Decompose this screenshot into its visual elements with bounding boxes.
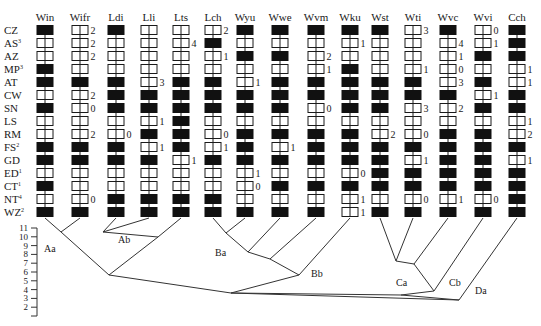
state-filled xyxy=(173,77,190,87)
state-filled xyxy=(440,25,457,35)
state-value: 1 xyxy=(494,90,499,101)
state-filled xyxy=(237,207,254,217)
state-value: 0 xyxy=(127,129,132,140)
state-filled xyxy=(272,90,289,100)
state-value: 1 xyxy=(160,142,165,153)
column-header: Wwe xyxy=(268,11,291,23)
state-value: 1 xyxy=(528,64,533,75)
state-filled xyxy=(108,90,125,100)
column-lts: Lts41 xyxy=(173,11,197,217)
tree-branch xyxy=(270,218,316,259)
state-filled xyxy=(272,155,289,165)
tree-branch xyxy=(158,218,181,237)
state-filled xyxy=(475,168,492,178)
state-value: 1 xyxy=(327,64,332,75)
state-value: 1 xyxy=(528,155,533,166)
state-filled xyxy=(342,77,359,87)
state-value: 2 xyxy=(91,25,96,36)
state-filled xyxy=(509,181,526,191)
state-filled xyxy=(509,207,526,217)
clade-label-bb: Bb xyxy=(311,268,323,279)
state-value: 1 xyxy=(224,142,229,153)
tree-branch xyxy=(213,218,226,233)
state-filled xyxy=(272,181,289,191)
state-filled xyxy=(205,90,222,100)
row-label-rm: RM xyxy=(4,128,21,140)
state-filled xyxy=(173,207,190,217)
state-filled xyxy=(272,103,289,113)
state-value: 1 xyxy=(256,77,261,88)
row-label-ls: LS xyxy=(4,115,17,127)
state-value: 0 xyxy=(424,129,429,140)
state-value: 0 xyxy=(91,103,96,114)
column-lch: Lch2101 xyxy=(204,11,228,217)
state-filled xyxy=(440,207,457,217)
state-value: 2 xyxy=(91,38,96,49)
row-label-nt: NT4 xyxy=(4,193,22,205)
state-filled xyxy=(440,142,457,152)
state-filled xyxy=(475,207,492,217)
column-header: Win xyxy=(36,11,55,23)
state-value: 2 xyxy=(528,129,533,140)
tree-branch xyxy=(459,218,517,300)
column-wyu: Wyu110 xyxy=(235,11,261,217)
tree-branch xyxy=(231,275,299,293)
state-filled xyxy=(37,25,54,35)
state-filled xyxy=(272,25,289,35)
state-filled xyxy=(237,90,254,100)
row-label-fs: FS2 xyxy=(4,141,19,153)
column-header: Wvm xyxy=(304,11,329,23)
column-header: Wifr xyxy=(70,11,91,23)
tree-branch xyxy=(103,232,158,237)
tree-branch xyxy=(396,261,414,264)
state-filled xyxy=(173,194,190,204)
state-value: 1 xyxy=(494,38,499,49)
y-axis-scale: 111098765432 xyxy=(19,223,37,316)
state-filled xyxy=(475,142,492,152)
state-filled xyxy=(475,181,492,191)
state-filled xyxy=(205,194,222,204)
state-filled xyxy=(37,207,54,217)
row-label-sn: SN xyxy=(4,102,18,114)
column-header: Lli xyxy=(143,11,156,23)
state-filled xyxy=(405,90,422,100)
tree-branch xyxy=(109,275,231,293)
state-filled xyxy=(205,155,222,165)
state-value: 1 xyxy=(192,155,197,166)
state-value: 2 xyxy=(459,103,464,114)
state-filled xyxy=(308,25,325,35)
clade-labels: AaAbBaBbCaCbDa xyxy=(44,234,487,296)
state-value: 2 xyxy=(327,51,332,62)
state-value: 0 xyxy=(361,168,366,179)
state-filled xyxy=(141,194,158,204)
tree-branch xyxy=(109,237,158,275)
state-filled xyxy=(37,155,54,165)
row-label-cz: CZ xyxy=(4,24,18,36)
state-value: 0 xyxy=(494,25,499,36)
state-filled xyxy=(342,64,359,74)
clade-label-da: Da xyxy=(475,285,487,296)
state-filled xyxy=(72,142,89,152)
state-filled xyxy=(440,168,457,178)
column-header: Wyu xyxy=(235,11,256,23)
state-filled xyxy=(342,155,359,165)
state-filled xyxy=(141,207,158,217)
state-filled xyxy=(509,90,526,100)
row-label-at: AT xyxy=(4,76,18,88)
state-filled xyxy=(205,207,222,217)
state-value: 1 xyxy=(424,155,429,166)
state-filled xyxy=(342,142,359,152)
clade-label-ca: Ca xyxy=(396,277,408,288)
column-wwe: Wwe1 xyxy=(268,11,295,217)
axis-tick-label: 2 xyxy=(24,302,29,312)
state-filled xyxy=(272,207,289,217)
state-value: 1 xyxy=(224,51,229,62)
state-value: 2 xyxy=(91,129,96,140)
column-lli: Lli311 xyxy=(141,11,165,217)
state-value: 1 xyxy=(459,194,464,205)
state-filled xyxy=(272,51,289,61)
state-filled xyxy=(37,103,54,113)
column-cch: Cch11121 xyxy=(508,11,532,217)
state-filled xyxy=(205,38,222,48)
state-filled xyxy=(342,90,359,100)
